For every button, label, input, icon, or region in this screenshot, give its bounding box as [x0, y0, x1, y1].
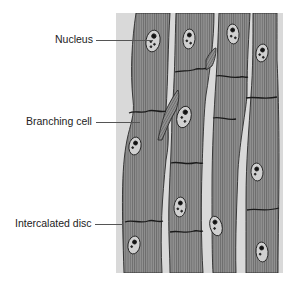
label-intercalated-disc: Intercalated disc [15, 217, 91, 229]
cardiac-muscle-diagram: Nucleus Branching cell Intercalated disc [0, 0, 297, 287]
leader-line-branching-cell [96, 122, 140, 123]
leader-line-intercalated-disc [95, 224, 123, 225]
label-branching-cell: Branching cell [26, 115, 92, 127]
leader-line-nucleus [96, 40, 153, 41]
cardiac-muscle-illustration [0, 0, 297, 287]
label-nucleus: Nucleus [55, 33, 93, 45]
